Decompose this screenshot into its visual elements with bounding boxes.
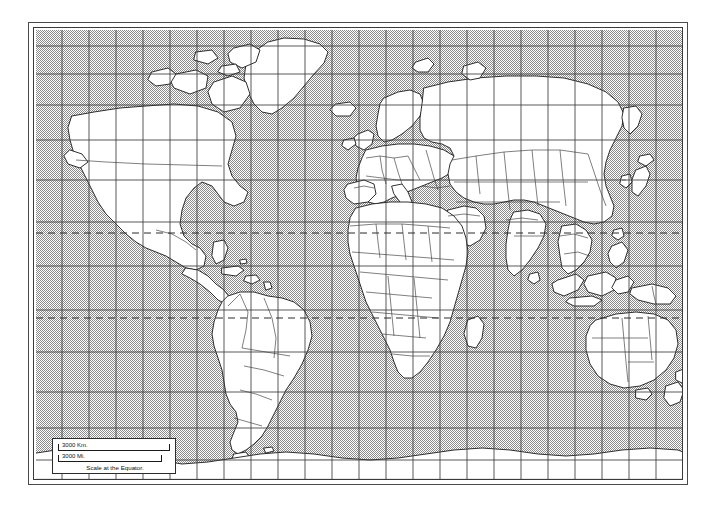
- map-plot-area[interactable]: [36, 30, 682, 479]
- world-map-svg: [36, 30, 682, 479]
- land-bahamas: [240, 259, 247, 264]
- scale-label-km: 3000 Km.: [61, 441, 89, 450]
- scale-label-mi: 3000 Mi.: [61, 452, 86, 461]
- scale-legend: 3000 Km. 3000 Mi. Scale at the Equator.: [52, 438, 176, 474]
- scale-caption: Scale at the Equator.: [53, 463, 177, 472]
- land-java: [566, 296, 602, 306]
- world-map-figure: 3000 Km. 3000 Mi. Scale at the Equator.: [0, 0, 717, 520]
